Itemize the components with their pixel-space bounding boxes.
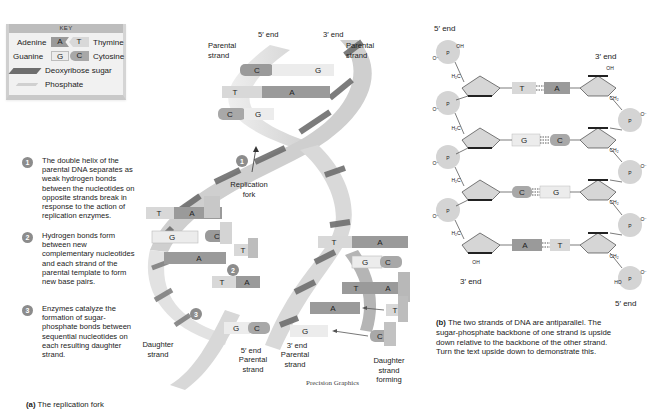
svg-text:A: A: [377, 238, 383, 247]
panel-a-caption: (a) The replication fork: [26, 400, 104, 410]
panel-b-top-5-end: 5′ end: [434, 24, 456, 33]
label-replication-fork: Replication fork: [226, 180, 272, 199]
svg-text:T: T: [233, 88, 238, 97]
panel-b-bottom-3-end: 3′ end: [460, 277, 482, 286]
svg-text:T: T: [558, 241, 563, 250]
svg-text:C: C: [254, 324, 260, 333]
svg-text:A: A: [385, 284, 391, 293]
svg-text:H₂C: H₂C: [451, 73, 461, 79]
svg-text:OH: OH: [456, 43, 464, 49]
svg-text:C: C: [385, 258, 391, 267]
svg-text:CH₂: CH₂: [609, 253, 618, 259]
svg-text:G: G: [233, 324, 239, 333]
antiparallel-strands-diagram: T A G C C G A T: [420, 0, 659, 300]
panel-a-caption-text: The replication fork: [38, 400, 104, 409]
svg-text:G: G: [255, 110, 261, 119]
step-3-text: Enzymes catalyze the formation of sugar-…: [42, 304, 137, 359]
label-daughter-strand-forming: Daughter strand forming: [368, 356, 410, 385]
svg-text:C: C: [377, 332, 383, 341]
panel-b-caption-letter: (b): [436, 318, 446, 327]
svg-text:OH: OH: [606, 65, 614, 71]
key-sugar-label: Deoxyribose sugar: [45, 66, 112, 75]
panel-b-bottom-5-end: 5′ end: [615, 299, 637, 308]
svg-text:T: T: [393, 306, 398, 315]
svg-text:C: C: [557, 136, 563, 145]
svg-text:O⁻: O⁻: [641, 269, 648, 275]
svg-text:CH₂: CH₂: [609, 199, 618, 205]
key-legend: KEY Adenine A T Thymine Guanine G C Cyto…: [6, 24, 126, 100]
svg-text:HO: HO: [614, 279, 622, 285]
step-2-text: Hydrogen bonds form between new compleme…: [42, 231, 137, 286]
svg-text:T: T: [220, 278, 225, 287]
key-base-T: T: [69, 37, 89, 47]
svg-text:G: G: [315, 66, 321, 75]
svg-text:OH: OH: [472, 259, 480, 265]
label-daughter-strand: Daughter strand: [138, 340, 178, 359]
svg-text:O⁻: O⁻: [433, 106, 440, 112]
step-1-text: The double helix of the parental DNA sep…: [42, 156, 137, 220]
key-adenine-label: Adenine: [17, 38, 46, 47]
credit-precision-graphics: Precision Graphics: [306, 379, 359, 387]
step-1-marker: 1: [22, 157, 33, 168]
svg-text:T: T: [157, 209, 162, 218]
step-3-marker: 3: [22, 305, 33, 316]
step-2-marker: 2: [22, 232, 33, 243]
svg-text:H₂C: H₂C: [451, 125, 461, 131]
svg-text:O⁻: O⁻: [641, 111, 648, 117]
svg-text:CH₂: CH₂: [609, 147, 618, 153]
svg-text:O⁻: O⁻: [641, 163, 648, 169]
key-cytosine-label: Cytosine: [93, 52, 124, 61]
svg-text:A: A: [289, 88, 295, 97]
panel-b-top-3-end: 3′ end: [595, 52, 617, 61]
key-base-A: A: [51, 37, 69, 47]
svg-text:O⁻: O⁻: [433, 55, 440, 61]
svg-text:3: 3: [194, 311, 198, 318]
key-base-C: C: [70, 51, 89, 61]
svg-text:H₂C: H₂C: [451, 230, 461, 236]
svg-text:CH₂: CH₂: [609, 95, 618, 101]
deoxyribose-sugar-swatch-icon: [8, 68, 41, 74]
svg-text:O⁻: O⁻: [433, 213, 440, 219]
svg-text:G: G: [169, 233, 175, 242]
svg-text:T: T: [520, 84, 525, 93]
svg-text:G: G: [553, 188, 559, 197]
svg-text:C: C: [214, 232, 220, 241]
key-base-G: G: [51, 51, 69, 61]
phosphate-swatch-icon: [16, 83, 39, 86]
label-parental-strand-right: Parental strand: [346, 41, 386, 60]
key-thymine-label: Thymine: [93, 38, 124, 47]
svg-text:A: A: [330, 304, 336, 313]
svg-text:T: T: [332, 238, 337, 247]
key-title: KEY: [9, 24, 123, 33]
svg-text:O⁻: O⁻: [433, 160, 440, 166]
svg-text:A: A: [244, 278, 250, 287]
svg-text:H₂C: H₂C: [451, 177, 461, 183]
svg-text:T: T: [354, 284, 359, 293]
panel-b-caption-text: The two strands of DNA are antiparallel.…: [436, 318, 611, 356]
svg-text:A: A: [196, 254, 202, 263]
svg-text:C: C: [227, 110, 233, 119]
svg-text:2: 2: [231, 267, 235, 274]
svg-text:G: G: [362, 258, 368, 267]
key-guanine-label: Guanine: [13, 52, 43, 61]
svg-text:C: C: [519, 188, 525, 197]
svg-text:G: G: [521, 136, 527, 145]
label-bottom-parental-right: Parental strand: [278, 350, 312, 369]
svg-text:O⁻: O⁻: [641, 216, 648, 222]
key-phosphate-label: Phosphate: [45, 80, 83, 89]
svg-text:C: C: [254, 66, 260, 75]
label-bottom-parental-left: Parental strand: [236, 355, 270, 374]
label-top-5-end: 5′ end: [258, 30, 278, 40]
svg-text:A: A: [189, 209, 195, 218]
svg-text:T: T: [241, 246, 246, 255]
panel-b-caption: (b) The two strands of DNA are antiparal…: [436, 318, 616, 357]
svg-text:G: G: [302, 327, 308, 336]
label-top-3-end: 3′ end: [323, 30, 343, 40]
label-parental-strand-left: Parental strand: [208, 41, 248, 60]
svg-text:A: A: [554, 84, 560, 93]
svg-text:1: 1: [240, 158, 244, 165]
svg-text:A: A: [522, 241, 528, 250]
panel-a-caption-letter: (a): [26, 400, 36, 409]
